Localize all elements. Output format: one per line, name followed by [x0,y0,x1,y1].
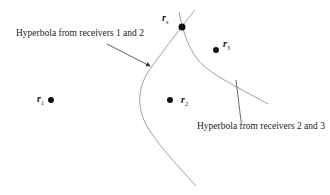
point-r2 [167,97,173,103]
label-r3: r3 [223,38,230,51]
hyperbola-2-3-curve [179,12,268,104]
point-rs [179,24,186,31]
label-r1: r1 [37,93,44,106]
leader-line-1-2 [107,44,150,66]
label-rs: rs [162,12,168,25]
point-r3 [213,47,219,53]
point-r1 [48,97,54,103]
label-hyperbola-2-3: Hyperbola from receivers 2 and 3 [197,121,325,131]
leader-line-2-3 [236,80,241,121]
label-hyperbola-1-2: Hyperbola from receivers 1 and 2 [16,28,144,38]
label-r2: r2 [181,94,188,107]
